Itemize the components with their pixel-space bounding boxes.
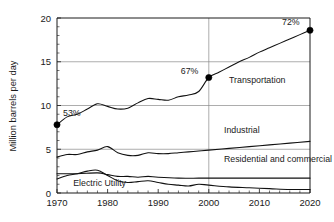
series-label-electric-utility: Electric Utility <box>73 178 126 188</box>
x-tick-label-1970: 1970 <box>46 197 67 208</box>
x-tick-label-2000: 2000 <box>198 197 219 208</box>
y-tick-label-10: 10 <box>40 100 51 111</box>
x-tick-label-1980: 1980 <box>97 197 118 208</box>
y-tick-label-15: 15 <box>40 56 51 67</box>
data-marker-72pct <box>307 27 313 33</box>
y-axis-title: Million barrels per day <box>8 60 18 151</box>
y-tick-label-20: 20 <box>40 13 51 24</box>
x-tick-label-2010: 2010 <box>249 197 270 208</box>
x-tick-label-2020: 2020 <box>299 197 320 208</box>
annotation-67pct: 67% <box>181 66 199 76</box>
annotation-72pct: 72% <box>282 17 300 27</box>
y-tick-label-5: 5 <box>46 144 51 155</box>
y-tick-label-0: 0 <box>46 188 51 199</box>
energy-consumption-line-chart: 197019801990200020102020 05101520 Transp… <box>0 0 334 222</box>
data-marker-53pct <box>54 122 60 128</box>
annotation-53pct: 53% <box>63 108 81 118</box>
data-marker-67pct <box>206 74 212 80</box>
series-label-industrial: Industrial <box>224 125 260 135</box>
series-label-transportation: Transportation <box>229 75 286 85</box>
chart-figure: 197019801990200020102020 05101520 Transp… <box>0 0 334 222</box>
x-tick-label-1990: 1990 <box>148 197 169 208</box>
series-label-residential-and-commercial: Residential and commercial <box>224 154 332 164</box>
